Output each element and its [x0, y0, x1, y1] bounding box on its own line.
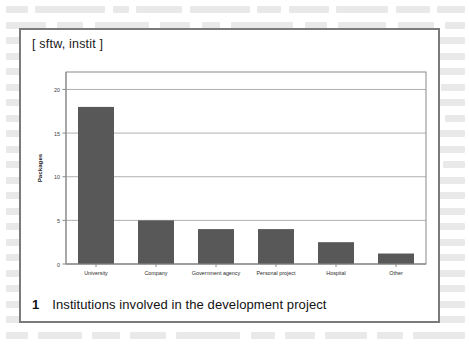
bar-chart: 05101520PackagesUniversityCompanyGovernm… — [30, 62, 430, 290]
y-tick-label: 5 — [57, 218, 60, 224]
y-axis-title: Packages — [36, 153, 43, 182]
y-tick-label: 20 — [54, 87, 60, 93]
bar — [78, 107, 114, 264]
caption-text: Institutions involved in the development… — [52, 297, 326, 312]
x-tick-label: University — [84, 270, 108, 276]
bar — [318, 242, 354, 264]
figure-tag-label: [ sftw, instit ] — [32, 37, 103, 51]
x-tick-label: Government agency — [192, 270, 241, 276]
bar — [258, 229, 294, 264]
plot-area — [66, 72, 426, 264]
figure-caption: 1 Institutions involved in the developme… — [32, 297, 327, 312]
y-tick-label: 10 — [54, 174, 60, 180]
x-tick-label: Other — [389, 270, 403, 276]
chart-canvas: 05101520PackagesUniversityCompanyGovernm… — [30, 62, 430, 290]
x-tick-label: Hospital — [326, 270, 345, 276]
x-tick-label: Company — [144, 270, 167, 276]
x-tick-label: Personal project — [257, 270, 296, 276]
bar — [378, 254, 414, 264]
bar — [138, 220, 174, 264]
figure-frame: [ sftw, instit ] 05101520PackagesUnivers… — [19, 28, 440, 323]
y-tick-label: 15 — [54, 131, 60, 137]
caption-number: 1 — [32, 297, 39, 312]
y-tick-label: 0 — [57, 262, 60, 268]
bar — [198, 229, 234, 264]
